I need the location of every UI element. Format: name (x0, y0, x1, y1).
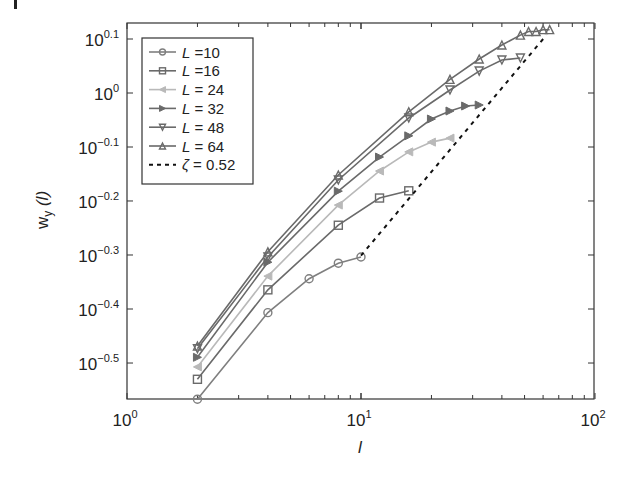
series-1 (193, 187, 412, 383)
legend-label: L = 32 (182, 100, 224, 117)
series-6 (361, 35, 546, 256)
y-axis-label: wy (l) (33, 191, 55, 230)
y-axis-label-main: w (33, 216, 52, 230)
y-tick-label: 10−0.5 (78, 352, 119, 374)
x-axis-label: l (358, 438, 363, 457)
y-axis-label-arg: (l) (33, 191, 52, 211)
legend: L =10L =16L = 24L = 32L = 48L = 64ζ = 0.… (142, 38, 253, 184)
y-tick-label: 10−0.1 (78, 136, 119, 158)
chart: 100101102100.110010−0.110−0.210−0.310−0.… (0, 0, 637, 482)
legend-label: L = 24 (182, 81, 224, 98)
y-tick-label: 10−0.3 (78, 244, 119, 266)
y-tick-label: 100 (94, 82, 119, 104)
x-tick-label: 102 (580, 408, 605, 430)
legend-label: L =16 (182, 62, 220, 79)
x-tick-label: 101 (346, 408, 371, 430)
legend-label: L = 48 (182, 119, 224, 136)
x-tick-label: 100 (112, 408, 137, 430)
legend-label: L =10 (182, 44, 220, 61)
legend-label: ζ = 0.52 (182, 156, 235, 173)
y-tick-label: 10−0.2 (78, 190, 119, 212)
y-tick-label: 10−0.4 (78, 298, 119, 320)
legend-label: L = 64 (182, 138, 224, 155)
y-tick-label: 100.1 (85, 28, 119, 50)
